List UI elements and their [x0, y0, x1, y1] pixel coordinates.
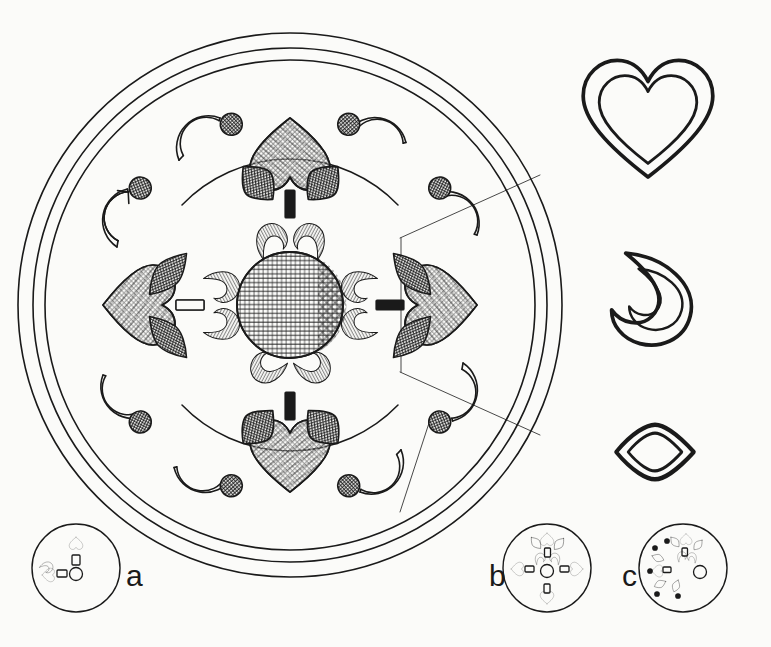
central-hatched-disc: [237, 252, 347, 358]
schematic-b-circle: [503, 524, 591, 612]
heart-template: [583, 60, 713, 177]
line-drawing-canvas: [0, 0, 771, 647]
leaf-template: [616, 425, 694, 480]
heart-stem-west-outline: [176, 300, 204, 310]
schematic-label-a: a: [126, 561, 143, 591]
template-shapes: [583, 60, 713, 479]
figure-plate: a b c: [0, 0, 771, 647]
schematic-b: [503, 524, 591, 612]
ornamented-disc: [18, 33, 562, 577]
schematic-label-b: b: [489, 561, 506, 591]
schematic-c-circle: [639, 524, 727, 612]
schematic-c: [639, 524, 727, 612]
schematic-a: [32, 524, 120, 612]
schematic-label-c: c: [622, 561, 637, 591]
comma-template: [605, 252, 701, 354]
